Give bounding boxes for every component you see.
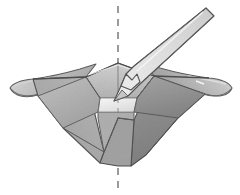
figure-container: Inverted pyramidal funnel with barbed pr…: [0, 0, 240, 195]
figure-illustration: Inverted pyramidal funnel with barbed pr…: [0, 0, 240, 195]
